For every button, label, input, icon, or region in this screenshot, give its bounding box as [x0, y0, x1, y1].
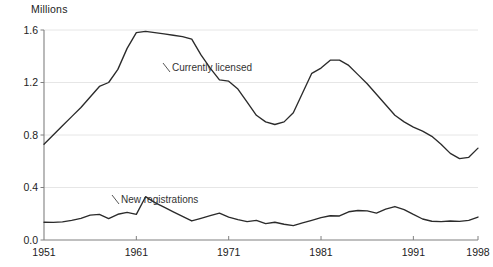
x-tick-label: 1991: [402, 246, 426, 258]
y-tick-label: 0.8: [23, 129, 38, 141]
series-annotation: Currently licensed: [172, 62, 252, 73]
x-tick-label: 1981: [309, 246, 333, 258]
chart-svg: 0.00.40.81.21.6 195119611971198119911998…: [0, 0, 493, 267]
gridlines-group: [44, 30, 478, 188]
series-line-currently-licensed: [44, 31, 478, 158]
x-axis-group: 195119611971198119911998: [32, 236, 490, 258]
y-tick-label: 1.2: [23, 76, 38, 88]
x-tick-label: 1971: [217, 246, 241, 258]
data-lines-group: [44, 31, 478, 225]
y-tick-label: 1.6: [23, 24, 38, 36]
x-tick-label: 1951: [32, 246, 56, 258]
series-line-new-registrations: [44, 197, 478, 226]
annotation-leader-line: [163, 63, 170, 72]
x-tick-label: 1998: [466, 246, 490, 258]
x-tick-label: 1961: [125, 246, 149, 258]
annotation-leader-line: [112, 195, 119, 204]
series-annotation: New registrations: [121, 194, 198, 205]
chart-container: Millions 0.00.40.81.21.6 195119611971198…: [0, 0, 493, 267]
y-tick-label: 0.0: [23, 234, 38, 246]
y-tick-label: 0.4: [23, 181, 38, 193]
y-ticks-group: 0.00.40.81.21.6: [23, 24, 44, 246]
